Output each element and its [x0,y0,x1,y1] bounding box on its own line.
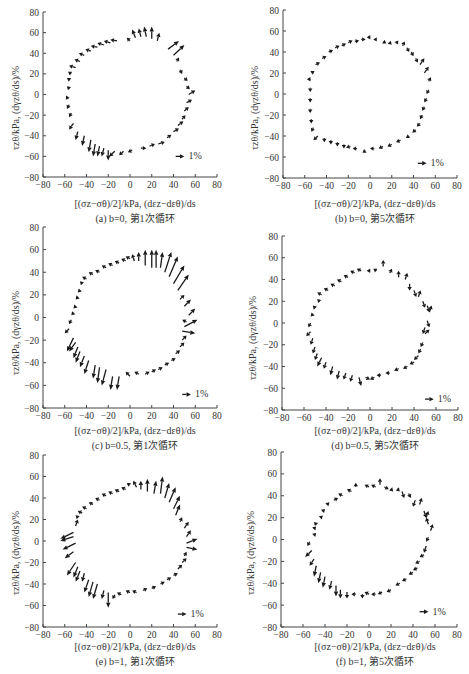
x-tick-label: 0 [128,411,133,421]
x-tick-label: 60 [191,411,201,421]
x-tick-label: 0 [128,180,133,190]
x-axis-label-a: [(σz−σθ)/2]/kPa, (dεz−dεθ)/ds [50,198,220,209]
x-tick-label: 80 [452,630,462,640]
y-tick-label: −80 [24,623,39,633]
x-tick-label: −60 [57,630,72,640]
x-tick-label: −20 [101,630,116,640]
x-axis-label-d: [(σz−σθ)/2]/kPa, (dεz−dεθ)/ds [285,425,465,436]
plot-area-a: −80−60−40−20020406080806040200−20−40−60−… [0,0,235,225]
x-axis-label-f: [(σz−σθ)/2]/kPa, (dεz−dεθ)/ds [285,641,465,652]
x-tick-label: 60 [430,630,440,640]
x-tick-label: −40 [79,411,94,421]
y-tick-label: 60 [30,472,40,482]
y-tick-label: −40 [263,362,278,372]
x-tick-label: 40 [169,411,179,421]
y-axis-label-f: τzθ/kPa, (dγzθ/ds)/% [245,511,256,595]
y-tick-label: −20 [264,111,279,121]
strain-increment-vectors [66,26,195,160]
x-tick-label: 20 [147,180,157,190]
y-tick-label: 0 [273,319,278,329]
x-tick-label: 20 [147,630,157,640]
scale-label: 1% [438,393,451,404]
x-axis-label-b: [(σz−σθ)/2]/kPa, (dεz−dεθ)/ds [285,198,465,209]
y-tick-label: 40 [30,494,40,504]
x-tick-label: −60 [296,630,311,640]
plot-area-c: −80−60−40−20020406080806040200−20−40−60−… [0,220,235,445]
y-tick-label: 40 [30,268,40,278]
y-tick-label: −20 [24,336,39,346]
x-tick-label: 80 [212,411,222,421]
chart-panel-b: −80−60−40−20020406080806040200−20−40−60−… [235,0,469,225]
strain-increment-vectors [307,35,431,153]
y-tick-label: 80 [30,451,40,461]
x-tick-label: 20 [387,413,397,423]
x-tick-label: 40 [409,413,419,423]
strain-increment-vectors [60,477,197,608]
y-tick-label: −40 [264,132,279,142]
y-tick-label: 40 [30,49,40,59]
y-tick-label: 0 [272,535,277,545]
caption-f: (f) b=1, 第5次循环 [285,653,465,668]
scale-label: 1% [191,608,204,619]
y-tick-label: 80 [270,6,280,16]
y-tick-label: 0 [34,313,39,323]
x-tick-label: 0 [368,413,373,423]
x-axis-label-c: [(σz−σθ)/2]/kPa, (dεz−dεθ)/ds [50,425,220,436]
scale-arrow-legend: 1% [176,150,202,161]
chart-panel-c: −80−60−40−20020406080806040200−20−40−60−… [0,220,235,445]
y-tick-label: 20 [30,290,40,300]
x-tick-label: −20 [101,180,116,190]
y-tick-label: 20 [30,69,40,79]
y-tick-label: 80 [268,448,278,458]
y-axis-label-b: τzθ/kPa, (dγzθ/ds)/% [249,66,260,150]
plot-area-d: −80−60−40−20020406080806040200−20−40−60−… [235,220,469,445]
scale-arrow-legend: 1% [178,608,204,619]
x-tick-label: −60 [57,180,72,190]
strain-increment-vectors [305,478,434,598]
x-tick-label: 60 [431,413,441,423]
scale-label: 1% [432,606,445,617]
x-tick-label: −40 [79,180,94,190]
strain-increment-vectors [65,250,198,390]
y-tick-label: −60 [24,381,39,391]
x-tick-label: −60 [57,411,72,421]
scale-arrow-legend: 1% [418,157,444,168]
y-tick-label: 60 [30,245,40,255]
y-tick-label: −80 [24,404,39,414]
x-tick-label: 60 [191,180,201,190]
x-tick-label: 60 [191,630,201,640]
scale-label: 1% [195,388,208,399]
y-tick-label: −20 [24,111,39,121]
plot-area-e: −80−60−40−20020406080806040200−20−40−60−… [0,445,235,674]
x-tick-label: −20 [340,630,355,640]
y-tick-label: −80 [263,406,278,416]
x-tick-label: 80 [212,180,222,190]
y-tick-label: 0 [274,90,279,100]
y-tick-label: −80 [24,173,39,183]
y-tick-label: −80 [262,623,277,633]
y-axis-label-e: τzθ/kPa, (dγzθ/ds)/% [10,511,21,595]
x-tick-label: −60 [297,413,312,423]
chart-panel-f: −80−60−40−20020406080806040200−20−40−60−… [235,445,469,674]
y-tick-label: −40 [24,131,39,141]
plot-area-b: −80−60−40−20020406080806040200−20−40−60−… [235,0,469,225]
y-tick-label: 60 [30,28,40,38]
x-tick-label: 40 [169,180,179,190]
x-tick-label: 40 [408,630,418,640]
scale-arrow-legend: 1% [420,606,446,617]
scale-label: 1% [431,157,444,168]
scale-arrow-legend: 1% [425,393,451,404]
plot-area-f: −80−60−40−20020406080806040200−20−40−60−… [235,445,469,674]
x-tick-label: 40 [409,181,419,191]
x-tick-label: −20 [101,411,116,421]
x-tick-label: 80 [453,413,463,423]
x-tick-label: 0 [367,630,372,640]
chart-panel-e: −80−60−40−20020406080806040200−20−40−60−… [0,445,235,674]
x-tick-label: 0 [368,181,373,191]
x-tick-label: −40 [79,630,94,640]
strain-increment-vectors [306,260,432,386]
x-tick-label: −40 [318,630,333,640]
x-tick-label: −60 [297,181,312,191]
y-tick-label: 0 [34,90,39,100]
x-tick-label: 40 [169,630,179,640]
